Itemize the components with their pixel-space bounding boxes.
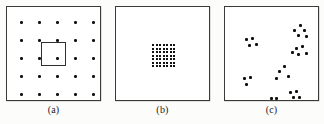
cluster-dot	[166, 48, 168, 50]
cluster-dot	[152, 44, 154, 46]
figure-container: (a) (b) (c)	[0, 0, 324, 124]
cluster-dot	[170, 44, 172, 46]
cluster-dot	[159, 55, 161, 57]
scatter-dot	[292, 96, 295, 99]
panel-a-regular-grid	[6, 6, 101, 101]
scatter-dot	[297, 53, 300, 56]
cluster-dot	[170, 48, 172, 50]
lattice-dot	[92, 75, 95, 78]
panel-c-random-scatter	[224, 6, 319, 101]
cluster-dot	[163, 58, 165, 60]
cluster-dot	[159, 48, 161, 50]
cluster-dot	[163, 51, 165, 53]
cluster-dot	[170, 58, 172, 60]
lattice-dot	[92, 21, 95, 24]
cluster-dot	[173, 65, 175, 67]
scatter-dot	[299, 24, 302, 27]
cluster-dot	[173, 48, 175, 50]
lattice-dot	[74, 93, 77, 96]
cluster-dot	[156, 44, 158, 46]
lattice-dot	[20, 39, 23, 42]
cluster-dot	[159, 65, 161, 67]
cluster-dot	[170, 65, 172, 67]
scatter-dot	[303, 29, 306, 32]
cluster-dot	[152, 48, 154, 50]
cluster-dot	[166, 58, 168, 60]
cluster-dot	[173, 62, 175, 64]
lattice-dot	[20, 93, 23, 96]
cluster-dot	[152, 51, 154, 53]
cluster-dot	[163, 48, 165, 50]
scatter-dot	[275, 97, 278, 100]
lattice-dot	[56, 21, 59, 24]
cluster-dot	[156, 65, 158, 67]
scatter-dot	[305, 52, 308, 55]
scatter-dot	[293, 29, 296, 32]
scatter-dot	[251, 37, 254, 40]
lattice-dot	[92, 93, 95, 96]
cluster-dot	[159, 44, 161, 46]
cluster-dot	[152, 55, 154, 57]
lattice-dot	[38, 93, 41, 96]
cluster-dot	[173, 44, 175, 46]
cluster-dot	[166, 55, 168, 57]
cluster-dot	[156, 55, 158, 57]
cluster-dot	[163, 65, 165, 67]
lattice-dot	[20, 75, 23, 78]
cluster-dot	[163, 55, 165, 57]
scatter-dot	[270, 97, 273, 100]
scatter-dot	[295, 47, 298, 50]
cluster-dot	[152, 65, 154, 67]
cluster-dot	[166, 62, 168, 64]
cluster-dot	[163, 44, 165, 46]
cluster-dot	[166, 51, 168, 53]
lattice-dot	[92, 57, 95, 60]
scatter-dot	[287, 75, 290, 78]
cluster-dot	[170, 55, 172, 57]
caption-panel-c: (c)	[224, 103, 319, 116]
cluster-dot	[173, 55, 175, 57]
scatter-dot	[298, 96, 301, 99]
panel-b-dense-cluster	[115, 6, 210, 101]
cluster-dot	[170, 51, 172, 53]
cluster-dot	[163, 62, 165, 64]
scatter-dot	[291, 51, 294, 54]
lattice-dot	[74, 75, 77, 78]
lattice-dot	[56, 93, 59, 96]
lattice-dot	[56, 75, 59, 78]
caption-panel-a: (a)	[6, 103, 101, 116]
cluster-dot	[159, 51, 161, 53]
highlight-box	[41, 42, 66, 66]
scatter-dot	[297, 34, 300, 37]
lattice-dot	[92, 39, 95, 42]
cluster-dot	[152, 62, 154, 64]
scatter-dot	[301, 45, 304, 48]
lattice-dot	[20, 57, 23, 60]
caption-panel-b: (b)	[115, 103, 210, 116]
cluster-dot	[152, 58, 154, 60]
cluster-dot	[170, 62, 172, 64]
lattice-dot	[74, 39, 77, 42]
scatter-dot	[305, 35, 308, 38]
lattice-dot	[20, 21, 23, 24]
scatter-dot	[249, 76, 252, 79]
cluster-dot	[156, 48, 158, 50]
cluster-dot	[156, 51, 158, 53]
cluster-dot	[156, 62, 158, 64]
cluster-dot	[159, 58, 161, 60]
scatter-dot	[243, 77, 246, 80]
lattice-dot	[38, 21, 41, 24]
cluster-dot	[156, 58, 158, 60]
scatter-dot	[248, 44, 251, 47]
lattice-dot	[74, 57, 77, 60]
scatter-dot	[245, 38, 248, 41]
scatter-dot	[278, 70, 281, 73]
cluster-dot	[166, 65, 168, 67]
lattice-dot	[74, 21, 77, 24]
lattice-dot	[38, 75, 41, 78]
scatter-dot	[275, 77, 278, 80]
scatter-dot	[289, 91, 292, 94]
scatter-dot	[283, 65, 286, 68]
scatter-dot	[295, 90, 298, 93]
cluster-dot	[159, 62, 161, 64]
